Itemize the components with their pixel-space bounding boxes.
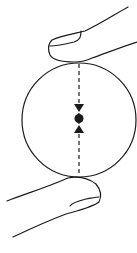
center-dot xyxy=(75,114,84,123)
top-finger-outline xyxy=(49,7,137,62)
bottom-finger-outline xyxy=(7,177,101,237)
arrow-down-icon xyxy=(74,104,84,112)
bottom-finger xyxy=(7,177,101,237)
diagram-canvas xyxy=(0,0,137,253)
arrow-up-icon xyxy=(74,125,84,133)
top-finger xyxy=(49,7,137,62)
diagram-svg xyxy=(0,0,137,253)
